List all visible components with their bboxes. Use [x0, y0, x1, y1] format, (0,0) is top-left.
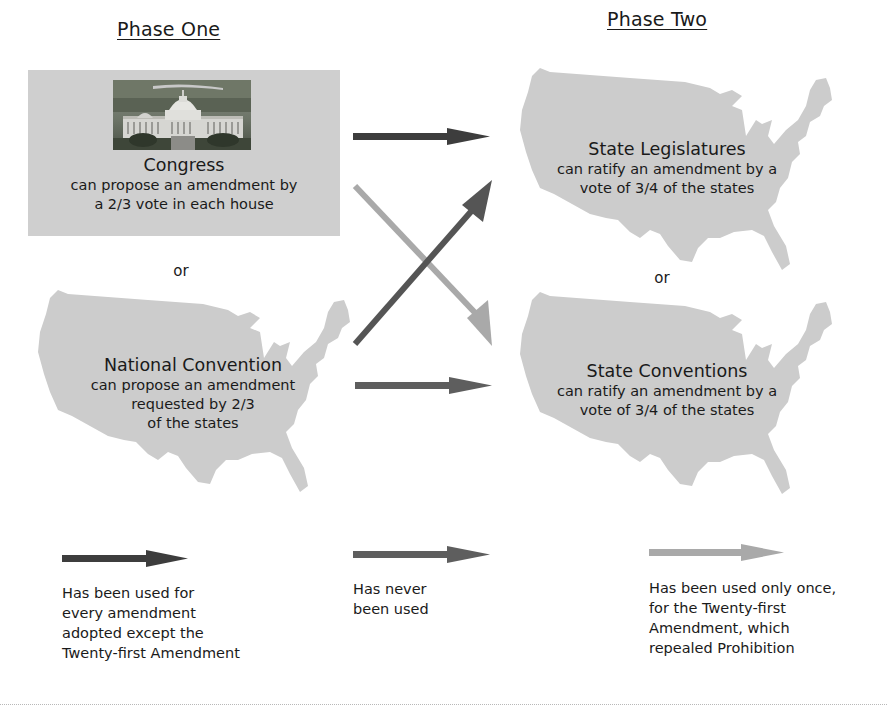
legend-item-medium: Has never been used	[353, 579, 429, 619]
legend-arrow-dark	[62, 550, 188, 567]
arrow-congress-to-legislatures	[353, 128, 490, 145]
legend-arrow-light	[649, 544, 784, 561]
legend-light-line-3: Amendment, which	[649, 618, 836, 638]
legend-light-line-2: for the Twenty-first	[649, 598, 836, 618]
legend-item-light: Has been used only once, for the Twenty-…	[649, 578, 836, 658]
legend-dark-line-3: adopted except the	[62, 623, 240, 643]
legend-dark-line-4: Twenty-first Amendment	[62, 643, 240, 663]
legend-arrow-medium	[353, 546, 490, 563]
legend-light-line-4: repealed Prohibition	[649, 638, 836, 658]
legend-medium-line-1: Has never	[353, 579, 429, 599]
legend-dark-line-1: Has been used for	[62, 583, 240, 603]
footer-divider	[0, 704, 887, 705]
legend-dark-line-2: every amendment	[62, 603, 240, 623]
legend-medium-line-2: been used	[353, 599, 429, 619]
arrow-convention-to-conventions	[355, 377, 492, 394]
legend-item-dark: Has been used for every amendment adopte…	[62, 583, 240, 663]
legend-light-line-1: Has been used only once,	[649, 578, 836, 598]
